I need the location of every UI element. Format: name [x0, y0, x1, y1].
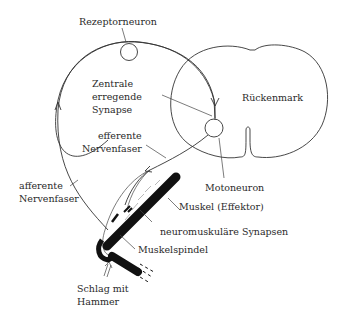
spindle-leader [120, 235, 135, 249]
reflex-arc-diagram: Rezeptorneuron Rückenmark Zentrale erreg… [0, 0, 337, 312]
label-efferent-2: Nervenfaser [82, 143, 142, 154]
motoneuron-cell [205, 119, 223, 137]
label-efferent-1: efferente [98, 130, 142, 141]
label-muscle: Muskel (Effektor) [179, 201, 264, 212]
label-afferent-2: Nervenfaser [19, 193, 79, 204]
receptor-neuron-cell [121, 44, 138, 61]
label-nmj: neuromuskuläre Synapsen [160, 226, 288, 237]
efferent-leader [146, 145, 166, 158]
label-spinal-cord: Rückenmark [242, 92, 303, 103]
label-receptor-neuron: Rezeptorneuron [79, 16, 157, 27]
label-spindle: Muskelspindel [138, 244, 208, 255]
motoneuron-leader [219, 138, 224, 178]
label-hammer-2: Hammer [77, 296, 120, 307]
neuromuscular-synapse-mark [124, 206, 132, 212]
muscle-spindle-mark [112, 214, 118, 222]
hammer-arrow-icon [104, 262, 112, 277]
label-motoneuron: Motoneuron [205, 182, 264, 193]
label-central-synapse-3: Synapse [92, 104, 133, 115]
receptor-leader [122, 28, 126, 42]
label-central-synapse-1: Zentrale [92, 78, 133, 89]
lower-bone [112, 256, 138, 272]
synapse-leader [162, 95, 212, 116]
label-afferent-1: afferente [19, 180, 63, 191]
label-hammer-1: Schlag mit [77, 283, 129, 294]
label-central-synapse-2: erregende [92, 91, 142, 102]
